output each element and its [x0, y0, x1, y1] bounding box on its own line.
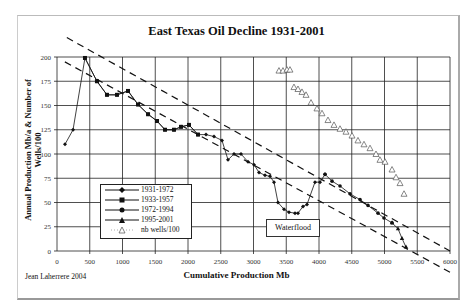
svg-text:2000: 2000 [181, 258, 196, 266]
waterflood-annotation: Waterflood [266, 219, 320, 237]
svg-text:4500: 4500 [345, 258, 360, 266]
legend-item: 1972-1994 [101, 205, 191, 215]
svg-text:4000: 4000 [312, 258, 327, 266]
svg-text:75: 75 [44, 175, 52, 183]
svg-text:0: 0 [48, 248, 52, 256]
svg-text:1500: 1500 [148, 258, 163, 266]
legend-item: 1931-1972 [101, 185, 191, 195]
legend-item: nb wells/100 [101, 225, 191, 235]
svg-text:0: 0 [55, 258, 59, 266]
svg-text:1000: 1000 [116, 258, 131, 266]
svg-text:25: 25 [44, 223, 52, 231]
svg-text:3000: 3000 [247, 258, 262, 266]
plot-area: 0500100015002000250030003500400045005000… [0, 0, 473, 303]
legend-item: 1995-2001 [101, 215, 191, 225]
svg-text:50: 50 [44, 199, 52, 207]
svg-text:500: 500 [85, 258, 96, 266]
svg-text:200: 200 [41, 54, 52, 62]
svg-text:3500: 3500 [279, 258, 294, 266]
svg-text:5000: 5000 [378, 258, 393, 266]
svg-text:6000: 6000 [443, 258, 458, 266]
y-axis-label: Annual Production Mb/a & Number of Wells… [23, 65, 43, 235]
legend: 1931-1972 1933-1957 1972-1994 1995-2001 … [100, 184, 192, 239]
svg-text:2500: 2500 [214, 258, 229, 266]
legend-item: 1933-1957 [101, 195, 191, 205]
credit-text: Jean Laherrere 2004 [25, 272, 86, 281]
svg-text:5500: 5500 [410, 258, 425, 266]
